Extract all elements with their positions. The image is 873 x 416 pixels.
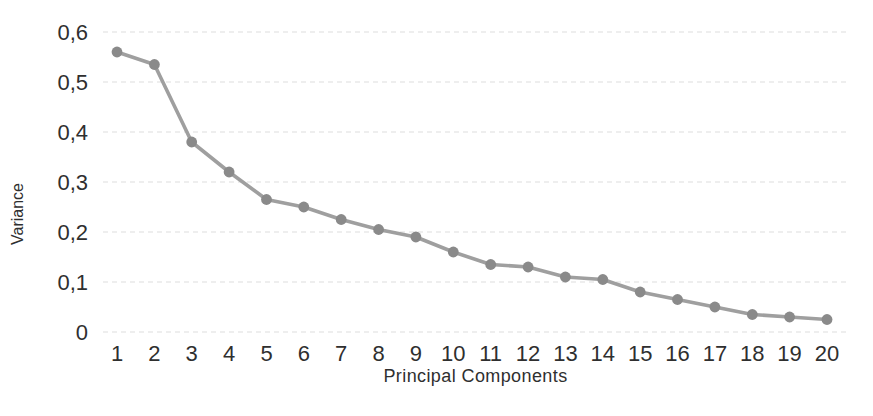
data-point [186, 137, 197, 148]
y-tick-label: 0,5 [57, 70, 88, 95]
data-point [784, 312, 795, 323]
x-tick-label: 3 [186, 341, 198, 366]
y-tick-label: 0,4 [57, 120, 88, 145]
y-tick-label: 0,3 [57, 170, 88, 195]
x-tick-label: 16 [665, 341, 689, 366]
x-tick-label: 2 [148, 341, 160, 366]
x-tick-label: 17 [703, 341, 727, 366]
variance-series-line [117, 52, 827, 320]
data-point [224, 167, 235, 178]
x-tick-label: 15 [628, 341, 652, 366]
data-point [485, 259, 496, 270]
x-tick-label: 1 [111, 341, 123, 366]
x-axis-title: Principal Components [103, 366, 848, 387]
x-tick-label: 4 [223, 341, 235, 366]
data-point [448, 247, 459, 258]
plot-area: 00,10,20,30,40,50,6123456789101112131415… [0, 0, 873, 416]
x-tick-label: 14 [591, 341, 615, 366]
data-point [523, 262, 534, 273]
data-point [112, 47, 123, 58]
x-tick-label: 11 [479, 341, 502, 366]
x-tick-label: 13 [553, 341, 577, 366]
data-point [747, 309, 758, 320]
variance-line-chart: 00,10,20,30,40,50,6123456789101112131415… [0, 0, 873, 416]
x-tick-label: 19 [777, 341, 801, 366]
x-tick-label: 20 [815, 341, 839, 366]
data-point [710, 302, 721, 313]
x-tick-label: 6 [298, 341, 310, 366]
x-tick-label: 12 [516, 341, 540, 366]
x-tick-label: 7 [335, 341, 347, 366]
data-point [635, 287, 646, 298]
x-tick-label: 10 [441, 341, 465, 366]
data-point [373, 224, 384, 235]
data-point [298, 202, 309, 213]
y-tick-label: 0 [76, 320, 88, 345]
data-point [261, 194, 272, 205]
y-tick-label: 0,2 [57, 220, 88, 245]
x-tick-label: 18 [740, 341, 764, 366]
y-axis-title: Variance [8, 154, 28, 274]
data-point [336, 214, 347, 225]
data-point [149, 59, 160, 70]
data-point [597, 274, 608, 285]
y-tick-label: 0,6 [57, 20, 88, 45]
x-tick-label: 5 [260, 341, 272, 366]
data-point [822, 314, 833, 325]
y-tick-label: 0,1 [57, 270, 88, 295]
x-tick-label: 9 [410, 341, 422, 366]
x-tick-label: 8 [372, 341, 384, 366]
scree-plot-figure: 00,10,20,30,40,50,6123456789101112131415… [0, 0, 873, 416]
data-point [672, 294, 683, 305]
data-point [560, 272, 571, 283]
data-point [411, 232, 422, 243]
